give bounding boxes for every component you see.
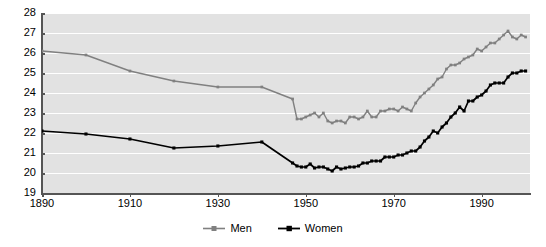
- data-point-marker: [423, 92, 426, 95]
- legend-item-men[interactable]: Men: [203, 222, 251, 234]
- data-point-marker: [414, 149, 417, 152]
- x-axis-tick-mark: [394, 193, 396, 197]
- data-point-marker: [524, 36, 527, 39]
- legend-item-women[interactable]: Women: [278, 222, 343, 234]
- data-point-marker: [216, 144, 219, 147]
- data-point-marker: [410, 149, 413, 152]
- data-point-marker: [42, 129, 44, 132]
- data-point-marker: [309, 162, 312, 165]
- data-point-marker: [445, 68, 448, 71]
- data-point-marker: [300, 118, 303, 121]
- data-point-marker: [326, 167, 329, 170]
- data-point-marker: [300, 165, 303, 168]
- data-point-marker: [322, 165, 325, 168]
- data-point-marker: [511, 71, 514, 74]
- data-point-marker: [454, 111, 457, 114]
- y-axis-tick-label: 24: [8, 87, 36, 98]
- data-point-marker: [313, 166, 316, 169]
- data-point-marker: [432, 129, 435, 132]
- data-point-marker: [375, 116, 378, 119]
- data-point-marker: [379, 110, 382, 113]
- data-point-marker: [335, 120, 338, 123]
- data-point-marker: [498, 38, 501, 41]
- data-point-marker: [326, 120, 329, 123]
- data-point-marker: [493, 81, 496, 84]
- data-point-marker: [502, 34, 505, 37]
- data-point-marker: [370, 116, 373, 119]
- chart-legend: Men Women: [0, 222, 546, 234]
- data-point-marker: [502, 81, 505, 84]
- data-point-marker: [441, 76, 444, 79]
- data-point-marker: [410, 110, 413, 113]
- series-line: [42, 71, 526, 171]
- data-point-marker: [507, 30, 510, 33]
- data-point-marker: [348, 165, 351, 168]
- data-point-marker: [506, 75, 509, 78]
- data-point-marker: [458, 105, 461, 108]
- data-point-marker: [485, 46, 488, 49]
- data-point-marker: [384, 110, 387, 113]
- data-point-marker: [414, 102, 417, 105]
- data-point-marker: [172, 146, 175, 149]
- data-point-marker: [383, 155, 386, 158]
- x-axis-tick-label: 1890: [22, 197, 62, 209]
- data-point-marker: [458, 62, 461, 65]
- data-point-marker: [515, 71, 518, 74]
- legend-label-women: Women: [305, 222, 343, 234]
- data-point-marker: [317, 165, 320, 168]
- data-point-marker: [498, 81, 501, 84]
- data-point-marker: [520, 69, 523, 72]
- data-point-marker: [296, 118, 299, 121]
- data-point-marker: [304, 116, 307, 119]
- legend-line-women-icon: [278, 224, 300, 233]
- data-point-marker: [361, 161, 364, 164]
- data-point-marker: [445, 121, 448, 124]
- data-point-marker: [309, 114, 312, 117]
- x-axis-tick-mark: [130, 193, 132, 197]
- x-axis-tick-label: 1970: [374, 197, 414, 209]
- data-point-marker: [129, 70, 132, 73]
- data-point-marker: [304, 165, 307, 168]
- data-point-marker: [362, 116, 365, 119]
- data-point-marker: [467, 99, 470, 102]
- x-axis-tick-mark: [42, 193, 44, 197]
- data-point-marker: [366, 161, 369, 164]
- data-point-marker: [217, 86, 220, 89]
- legend-label-men: Men: [230, 222, 251, 234]
- data-point-marker: [419, 145, 422, 148]
- data-point-marker: [366, 110, 369, 113]
- data-point-marker: [331, 169, 334, 172]
- y-axis-tick-label: 27: [8, 27, 36, 38]
- data-point-marker: [520, 34, 523, 37]
- x-axis-tick-label: 1990: [462, 197, 502, 209]
- data-point-marker: [401, 106, 404, 109]
- data-point-marker: [344, 166, 347, 169]
- data-point-marker: [260, 140, 263, 143]
- data-point-marker: [375, 159, 378, 162]
- x-axis-line: [41, 193, 531, 195]
- series-women: [42, 69, 527, 172]
- data-point-marker: [436, 78, 439, 81]
- data-point-marker: [484, 89, 487, 92]
- data-point-marker: [493, 42, 496, 45]
- data-point-marker: [388, 108, 391, 111]
- data-point-marker: [449, 115, 452, 118]
- data-point-marker: [471, 99, 474, 102]
- data-point-marker: [515, 38, 518, 41]
- data-point-marker: [427, 135, 430, 138]
- data-point-marker: [42, 50, 43, 53]
- data-point-marker: [463, 109, 466, 112]
- data-point-marker: [489, 42, 492, 45]
- series-line: [42, 31, 526, 123]
- y-axis-tick-label: 20: [8, 167, 36, 178]
- data-point-marker: [291, 161, 294, 164]
- data-point-marker: [392, 108, 395, 111]
- data-point-marker: [322, 112, 325, 115]
- legend-line-men-icon: [203, 224, 225, 233]
- data-point-marker: [344, 122, 347, 125]
- data-point-marker: [339, 167, 342, 170]
- data-point-marker: [397, 153, 400, 156]
- data-point-marker: [392, 155, 395, 158]
- data-point-marker: [335, 165, 338, 168]
- data-point-marker: [379, 159, 382, 162]
